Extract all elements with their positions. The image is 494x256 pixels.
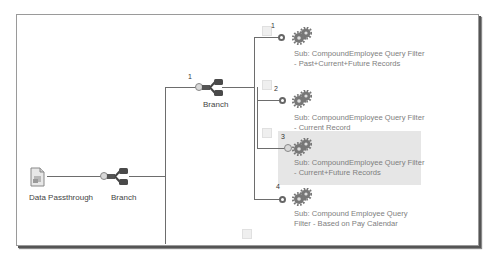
gears-icon <box>292 90 312 108</box>
connector-vertical-main <box>165 87 166 244</box>
gears-icon <box>292 188 312 206</box>
sub-4-index: 4 <box>276 183 280 190</box>
bottom-checkbox[interactable] <box>242 229 252 239</box>
branch-nested-label: Branch <box>203 100 228 110</box>
sub-3-label: Sub: CompoundEmployee Query Filter - Cur… <box>294 158 426 178</box>
connector-to-sub-4 <box>254 199 281 200</box>
sub-3-checkbox[interactable] <box>262 128 272 138</box>
gears-icon <box>292 138 312 156</box>
sub-2-label: Sub: CompoundEmployee Query Filter - Cur… <box>294 113 426 133</box>
connector-vertical-nested <box>254 37 255 200</box>
sub-3-index: 3 <box>281 133 285 140</box>
sub-2-node[interactable] <box>292 90 312 108</box>
sub-2-index: 2 <box>274 85 278 92</box>
sub-3-node[interactable] <box>292 138 312 156</box>
branch-nested-index: 1 <box>188 73 192 80</box>
connector-to-sub-2 <box>257 100 281 101</box>
connector-to-nested-branch <box>165 87 197 88</box>
data-passthrough-label: Data Passthrough <box>29 193 93 203</box>
sub-1-index: 1 <box>271 22 275 29</box>
branch-main-label: Branch <box>111 193 136 203</box>
connector-to-sub-3 <box>257 134 258 149</box>
gears-icon <box>292 27 312 45</box>
sub-3-input-port[interactable] <box>284 144 292 152</box>
branch-icon <box>202 79 224 96</box>
branch-icon <box>107 168 129 185</box>
data-passthrough-node[interactable] <box>29 167 47 187</box>
sub-1-node[interactable] <box>292 27 312 45</box>
branch-nested-node[interactable] <box>202 79 224 96</box>
branch-main-node[interactable] <box>107 168 129 185</box>
sub-4-node[interactable] <box>292 188 312 206</box>
sub-1-label: Sub: CompoundEmployee Query Filter - Pas… <box>294 49 426 69</box>
connector-vertical-nested-2 <box>257 87 258 135</box>
sub-4-input-port[interactable] <box>279 196 286 203</box>
document-icon <box>29 167 47 187</box>
sub-1-input-port[interactable] <box>278 34 285 41</box>
connector-source-to-branch <box>47 176 101 177</box>
sub-4-label: Sub: Compound Employee Query Filter - Ba… <box>294 209 419 229</box>
connector-nested-branch-out <box>222 87 255 88</box>
sub-2-checkbox[interactable] <box>262 80 272 90</box>
connector-to-sub-1 <box>254 37 280 38</box>
connector-branch-out <box>129 176 166 177</box>
sub-2-input-port[interactable] <box>279 97 286 104</box>
connector-to-sub-3-h <box>257 148 285 149</box>
